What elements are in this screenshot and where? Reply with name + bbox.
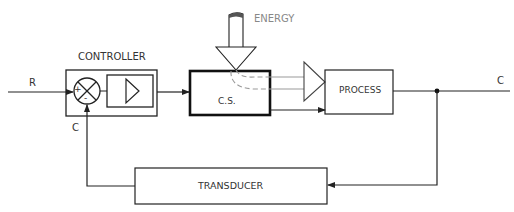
feedback-c-label: C [72, 122, 79, 133]
output-c-label: C [497, 75, 504, 86]
transducer-to-summing-line [87, 105, 135, 186]
controller-label: CONTROLLER [78, 51, 146, 62]
input-label: R [29, 77, 36, 88]
plus-sign: + [74, 84, 82, 94]
energy-arrow-icon [216, 13, 256, 70]
energy-amplifier-triangle-icon [304, 62, 325, 101]
feedback-line [328, 91, 437, 185]
minus-sign: - [84, 93, 87, 103]
amplifier-triangle-icon [126, 79, 139, 103]
process-label: PROCESS [339, 85, 381, 95]
energy-label: ENERGY [254, 13, 294, 24]
energy-flow-dashed [231, 71, 270, 89]
transducer-label: TRANSDUCER [198, 180, 263, 191]
control-system-box [190, 71, 270, 115]
cs-label: C.S. [218, 96, 236, 106]
controller-amplifier-box [107, 75, 153, 107]
